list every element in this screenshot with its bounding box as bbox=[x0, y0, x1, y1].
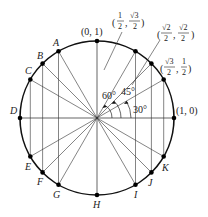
point-E bbox=[28, 154, 33, 159]
point-K bbox=[161, 154, 166, 159]
svg-text:,: , bbox=[173, 29, 176, 40]
point-30 bbox=[161, 77, 166, 82]
svg-text:): ) bbox=[191, 29, 194, 41]
coord-45-label: ( √2 2 , √2 2 ) bbox=[157, 23, 194, 43]
label-J: J bbox=[148, 177, 153, 188]
svg-text:√2: √2 bbox=[179, 23, 187, 32]
point-I bbox=[133, 182, 138, 187]
label-K: K bbox=[161, 162, 170, 173]
point-45 bbox=[149, 61, 154, 66]
point-0-1 bbox=[95, 39, 100, 44]
point-B bbox=[40, 61, 45, 66]
angle-label-30: 30° bbox=[133, 104, 147, 115]
svg-text:,: , bbox=[125, 17, 128, 28]
svg-text:(: ( bbox=[160, 63, 164, 75]
svg-text:2: 2 bbox=[167, 68, 171, 77]
coord-30-label: ( √3 2 , 1 2 ) bbox=[160, 57, 191, 77]
unit-circle-diagram: A B C D E F G H I J K (0, 1) (1, 0) ( 1 … bbox=[0, 0, 208, 217]
point-60 bbox=[133, 49, 138, 54]
svg-text:): ) bbox=[188, 63, 191, 75]
svg-text:√3: √3 bbox=[165, 57, 173, 66]
label-B: B bbox=[37, 50, 43, 61]
point-C bbox=[28, 77, 33, 82]
svg-text:√3: √3 bbox=[130, 11, 138, 20]
label-G: G bbox=[53, 189, 60, 200]
point-F bbox=[40, 170, 45, 175]
point-D bbox=[18, 116, 23, 121]
svg-text:1: 1 bbox=[182, 57, 186, 66]
svg-text:(: ( bbox=[157, 29, 161, 41]
coord-60-label: ( 1 2 , √3 2 ) bbox=[112, 11, 144, 31]
angle-label-45: 45° bbox=[121, 86, 135, 97]
point-1-0 bbox=[172, 116, 177, 121]
label-C: C bbox=[25, 65, 32, 76]
point-J bbox=[149, 170, 154, 175]
svg-text:2: 2 bbox=[118, 22, 122, 31]
label-right-coord: (1, 0) bbox=[176, 105, 198, 117]
svg-text:,: , bbox=[176, 63, 179, 74]
svg-text:2: 2 bbox=[133, 22, 137, 31]
svg-text:2: 2 bbox=[164, 34, 168, 43]
point-H bbox=[95, 193, 100, 198]
svg-text:(: ( bbox=[112, 17, 116, 29]
point-A bbox=[56, 49, 61, 54]
label-I: I bbox=[133, 189, 138, 200]
label-top-coord: (0, 1) bbox=[81, 26, 103, 38]
svg-text:2: 2 bbox=[181, 34, 185, 43]
label-D: D bbox=[9, 105, 18, 116]
svg-text:): ) bbox=[141, 17, 144, 29]
svg-text:2: 2 bbox=[182, 68, 186, 77]
angle-label-60: 60° bbox=[102, 90, 116, 101]
point-G bbox=[56, 182, 61, 187]
label-F: F bbox=[36, 176, 44, 187]
label-E: E bbox=[24, 161, 31, 172]
svg-text:√2: √2 bbox=[162, 23, 170, 32]
svg-text:1: 1 bbox=[118, 11, 122, 20]
label-A: A bbox=[52, 37, 60, 48]
label-H: H bbox=[92, 199, 101, 210]
